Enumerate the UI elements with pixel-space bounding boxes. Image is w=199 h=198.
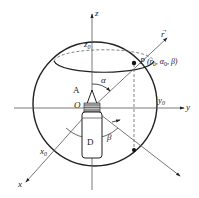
x0-sub: 0 (44, 151, 47, 157)
label-d: D (87, 138, 94, 147)
label-a: A (73, 86, 80, 95)
alpha-arc (92, 84, 110, 91)
x0-label: x0 (40, 147, 47, 157)
origin-label: O (74, 101, 81, 110)
p-beta: , β) (167, 57, 178, 66)
beta-label: β (107, 133, 111, 142)
vector-arrow-mark: → (161, 27, 168, 34)
beta-arrow (112, 120, 120, 122)
alpha-label: α (101, 76, 106, 85)
point-p-label: P (r0, α0, β) (140, 58, 178, 67)
z-axis-label: z (95, 9, 99, 18)
z0-label: z0 (84, 40, 91, 50)
z0-sub: 0 (88, 44, 91, 50)
latitude-ellipse-front (54, 61, 154, 72)
point-p (132, 61, 136, 65)
diagram-canvas (0, 0, 199, 198)
y0-sub: 0 (162, 100, 165, 106)
projectile-body (82, 90, 102, 158)
point-projection (132, 148, 136, 152)
latitude-ellipse-back (54, 50, 154, 61)
y-axis-label: y (186, 103, 190, 112)
r-vector (92, 38, 167, 108)
p-alpha: , α (156, 57, 164, 66)
p-name: P (140, 57, 145, 66)
y0-label: y0 (158, 96, 165, 106)
x-axis-label: x (18, 180, 22, 189)
